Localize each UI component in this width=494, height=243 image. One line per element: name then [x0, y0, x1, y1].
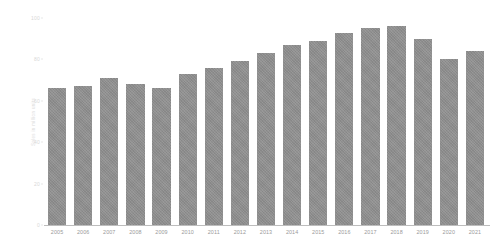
x-tick-label: 2016 — [338, 229, 350, 235]
y-tick-label: 80 — [34, 56, 40, 62]
bar[interactable] — [361, 28, 379, 225]
y-tick-label: 20 — [34, 181, 40, 187]
x-tick-label: 2017 — [364, 229, 376, 235]
bar[interactable] — [309, 41, 327, 225]
x-tick-label: 2011 — [208, 229, 220, 235]
bar[interactable] — [257, 53, 275, 225]
x-tick-label: 2007 — [103, 229, 115, 235]
bar[interactable] — [283, 45, 301, 225]
y-tick-mark — [41, 142, 43, 143]
bar[interactable] — [335, 33, 353, 226]
bar[interactable] — [440, 59, 458, 225]
x-tick-label: 2012 — [234, 229, 246, 235]
bar[interactable] — [48, 88, 66, 225]
x-tick-label: 2013 — [260, 229, 272, 235]
x-tick-label: 2008 — [129, 229, 141, 235]
y-tick-label: 0 — [37, 222, 40, 228]
x-tick-label: 2009 — [155, 229, 167, 235]
bar[interactable] — [414, 39, 432, 225]
bars-layer — [44, 18, 488, 225]
bar[interactable] — [74, 86, 92, 225]
plot-area: 020406080100 — [44, 18, 488, 225]
x-tick-label: 2005 — [51, 229, 63, 235]
bar[interactable] — [466, 51, 484, 225]
y-tick-mark — [41, 100, 43, 101]
x-tick-label: 2018 — [390, 229, 402, 235]
x-tick-label: 2014 — [286, 229, 298, 235]
bar-chart: Sales in million units 020406080100 2005… — [0, 0, 494, 243]
x-tick-label: 2019 — [417, 229, 429, 235]
bar[interactable] — [205, 68, 223, 225]
x-tick-label: 2006 — [77, 229, 89, 235]
bar[interactable] — [231, 61, 249, 225]
y-tick-label: 40 — [34, 139, 40, 145]
bar[interactable] — [152, 88, 170, 225]
y-tick-label: 60 — [34, 98, 40, 104]
bar[interactable] — [100, 78, 118, 225]
x-tick-label: 2015 — [312, 229, 324, 235]
y-tick-mark — [41, 18, 43, 19]
y-tick-mark — [41, 59, 43, 60]
y-tick-label: 100 — [31, 15, 40, 21]
bar[interactable] — [387, 26, 405, 225]
x-tick-label: 2020 — [443, 229, 455, 235]
bar[interactable] — [179, 74, 197, 225]
y-tick-mark — [41, 225, 43, 226]
y-tick-mark — [41, 183, 43, 184]
x-axis-line — [44, 225, 490, 226]
bar[interactable] — [126, 84, 144, 225]
x-tick-label: 2010 — [181, 229, 193, 235]
x-tick-label: 2021 — [469, 229, 481, 235]
